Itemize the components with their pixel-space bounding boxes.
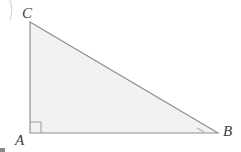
scan-artifact-corner-curve-icon [2,0,12,20]
scan-artifact-speck-icon [0,148,5,152]
vertex-label-c: C [22,6,32,21]
triangle-canvas [0,0,241,152]
vertex-label-b: B [223,124,232,139]
geometry-figure: C A B [0,0,241,152]
triangle-shape [30,22,218,133]
vertex-label-a: A [15,133,24,148]
